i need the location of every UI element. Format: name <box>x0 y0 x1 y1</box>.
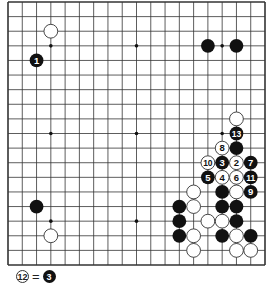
stones: 113810327546119 <box>30 24 258 257</box>
white-stone-disc <box>230 185 244 199</box>
white-stone <box>230 185 244 199</box>
star-point <box>49 44 53 48</box>
white-stone <box>44 24 58 38</box>
white-stone <box>230 243 244 257</box>
move-number-label: 11 <box>246 173 255 183</box>
black-stone: 9 <box>244 185 258 199</box>
white-stone-disc <box>244 243 258 257</box>
white-stone: 2 <box>230 156 244 170</box>
white-stone <box>187 243 201 257</box>
white-stone-disc <box>44 229 58 243</box>
move-number-label: 4 <box>220 172 226 183</box>
move-number-label: 8 <box>220 142 225 153</box>
black-stone: 11 <box>244 170 258 184</box>
white-stone <box>230 229 244 243</box>
black-stone-disc <box>230 141 244 155</box>
black-stone <box>172 229 186 243</box>
black-stone <box>230 200 244 214</box>
black-stone <box>230 214 244 228</box>
white-stone <box>201 214 215 228</box>
black-stone <box>244 229 258 243</box>
move-number-label: 1 <box>34 55 40 66</box>
black-stone: 13 <box>230 127 244 141</box>
caption-white-stone: 12 <box>16 270 29 283</box>
star-point <box>49 219 53 223</box>
black-stone <box>230 141 244 155</box>
star-point <box>49 132 53 136</box>
black-stone-disc <box>230 200 244 214</box>
white-stone <box>187 185 201 199</box>
move-number-label: 13 <box>232 129 242 139</box>
black-stone: 5 <box>201 170 215 184</box>
white-stone: 10 <box>201 156 215 170</box>
star-point <box>220 44 224 48</box>
white-stone <box>215 214 229 228</box>
white-stone-disc <box>230 243 244 257</box>
move-number-label: 9 <box>248 186 253 197</box>
white-stone-disc <box>44 24 58 38</box>
black-stone-disc <box>172 229 186 243</box>
black-stone <box>172 200 186 214</box>
go-board: 113810327546119 <box>0 0 271 268</box>
black-stone <box>30 200 44 214</box>
star-point <box>135 132 139 136</box>
move-number-label: 2 <box>234 157 239 168</box>
black-stone: 1 <box>30 54 44 68</box>
star-point <box>135 44 139 48</box>
black-stone-disc <box>172 214 186 228</box>
black-stone <box>201 39 215 53</box>
black-stone-disc <box>215 185 229 199</box>
black-stone: 3 <box>215 156 229 170</box>
black-stone <box>215 229 229 243</box>
move-number-label: 5 <box>205 172 211 183</box>
white-stone-disc <box>187 200 201 214</box>
white-stone-disc <box>187 229 201 243</box>
black-stone <box>215 200 229 214</box>
black-stone-disc <box>230 214 244 228</box>
black-stone: 7 <box>244 156 258 170</box>
white-stone <box>244 243 258 257</box>
white-stone: 6 <box>230 170 244 184</box>
caption-black-stone: 3 <box>43 270 56 283</box>
white-stone: 4 <box>215 170 229 184</box>
white-stone <box>187 200 201 214</box>
white-stone-disc <box>215 214 229 228</box>
star-point <box>220 132 224 136</box>
black-stone <box>215 185 229 199</box>
caption-equals: = <box>32 269 40 284</box>
black-stone-disc <box>230 39 244 53</box>
star-point <box>135 219 139 223</box>
move-number-label: 3 <box>220 157 225 168</box>
black-stone <box>172 214 186 228</box>
white-stone <box>230 112 244 126</box>
black-stone-disc <box>172 200 186 214</box>
white-stone-disc <box>201 214 215 228</box>
white-stone: 8 <box>215 141 229 155</box>
black-stone <box>230 39 244 53</box>
move-number-label: 6 <box>234 172 239 183</box>
black-stone-disc <box>30 200 44 214</box>
white-stone-disc <box>187 243 201 257</box>
white-stone-disc <box>230 112 244 126</box>
black-stone-disc <box>201 39 215 53</box>
black-stone-disc <box>215 200 229 214</box>
move-number-label: 7 <box>248 157 253 168</box>
caption: 12 = 3 <box>16 268 56 285</box>
white-stone-disc <box>230 229 244 243</box>
move-number-label: 10 <box>203 158 213 168</box>
white-stone <box>44 229 58 243</box>
white-stone-disc <box>187 185 201 199</box>
white-stone <box>187 229 201 243</box>
black-stone-disc <box>215 229 229 243</box>
black-stone-disc <box>244 229 258 243</box>
